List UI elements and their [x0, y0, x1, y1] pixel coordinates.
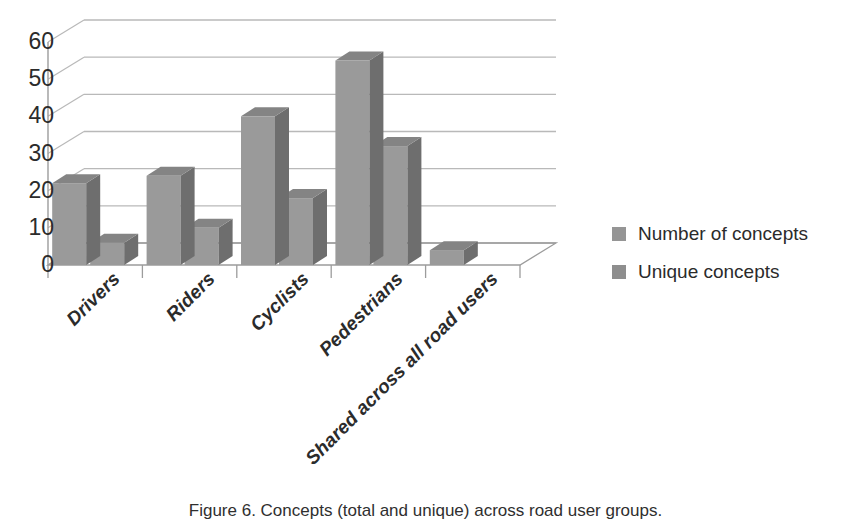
chart-plot-area: 6050403020100: [0, 0, 610, 300]
square-swatch-icon: [612, 265, 626, 279]
bar-column: [147, 167, 195, 265]
figure-container: 6050403020100 DriversRidersCyclistsPedes…: [0, 0, 851, 530]
figure-caption: Figure 6. Concepts (total and unique) ac…: [0, 500, 851, 522]
legend-item: Number of concepts: [612, 215, 851, 253]
y-axis-tick-label: 50: [8, 67, 54, 90]
x-axis-labels: DriversRidersCyclistsPedestriansShared a…: [0, 268, 610, 498]
legend-item-label: Unique concepts: [638, 261, 780, 283]
y-axis-tick-label: 20: [8, 179, 54, 202]
y-axis-labels: 6050403020100: [0, 0, 54, 300]
bar-column: [430, 241, 478, 265]
square-swatch-icon: [612, 227, 626, 241]
y-axis-tick-label: 30: [8, 142, 54, 165]
chart-legend: Number of conceptsUnique concepts: [612, 215, 851, 291]
bar-column: [335, 52, 383, 265]
x-axis-tick-label: Cyclists: [246, 268, 313, 335]
x-axis-tick-label: Pedestrians: [315, 268, 407, 360]
x-axis-tick-label: Drivers: [62, 268, 124, 330]
bar-column: [52, 174, 100, 265]
y-axis-tick-label: 40: [8, 104, 54, 127]
y-axis-tick-label: 60: [8, 30, 54, 53]
legend-item: Unique concepts: [612, 253, 851, 291]
x-axis-tick-label: Shared across all road users: [301, 268, 502, 469]
bar-column: [241, 107, 289, 265]
bars-group: [52, 52, 478, 265]
legend-item-label: Number of concepts: [638, 223, 808, 245]
y-axis-tick-label: 10: [8, 216, 54, 239]
x-axis-tick-label: Riders: [161, 268, 218, 325]
bar-chart-svg: [0, 0, 610, 300]
